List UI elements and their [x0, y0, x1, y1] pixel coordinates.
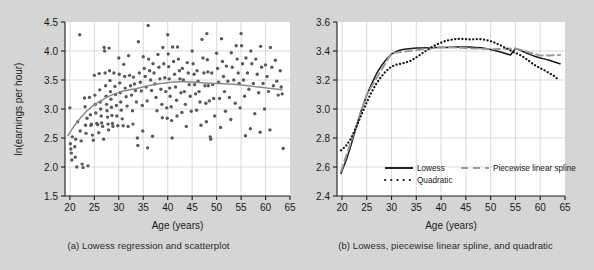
- panel-b: 202530354045505560652.42.62.83.03.23.43.…: [297, 0, 594, 270]
- y-tick-label: 1.5: [44, 191, 58, 202]
- x-tick-label: 45: [187, 202, 199, 213]
- x-tick-label: 40: [436, 202, 448, 213]
- panel-b-plot: 202530354045505560652.42.62.83.03.23.43.…: [297, 0, 594, 240]
- legend-label-quadratic: Quadratic: [417, 176, 453, 185]
- y-tick-label: 2.5: [44, 133, 58, 144]
- y-tick-label: 3.4: [316, 46, 330, 57]
- figure-container: 202530354045505560651.52.02.53.03.54.04.…: [0, 0, 594, 270]
- y-tick-label: 4.0: [44, 46, 58, 57]
- x-tick-label: 50: [211, 202, 223, 213]
- y-tick-label: 3.6: [316, 17, 330, 28]
- panel-b-caption: (b) Lowess, piecewise linear spline, and…: [297, 240, 594, 251]
- y-tick-label: 3.2: [316, 75, 330, 86]
- x-tick-label: 65: [284, 202, 296, 213]
- y-tick-label: 3.0: [44, 104, 58, 115]
- y-tick-label: 4.5: [44, 17, 58, 28]
- x-tick-label: 30: [113, 202, 125, 213]
- x-tick-label: 35: [411, 202, 423, 213]
- x-tick-label: 35: [138, 202, 150, 213]
- legend-label-piecewise-linear-spline: Piecewise linear spline: [493, 164, 576, 173]
- x-tick-label: 60: [535, 202, 547, 213]
- panel-a-caption: (a) Lowess regression and scatterplot: [0, 240, 297, 251]
- y-tick-label: 3.0: [316, 104, 330, 115]
- x-tick-label: 50: [485, 202, 497, 213]
- x-tick-label: 65: [559, 202, 571, 213]
- x-tick-label: 30: [386, 202, 398, 213]
- x-tick-label: 45: [460, 202, 472, 213]
- y-axis-title: ln(earnings per hour): [13, 63, 24, 156]
- x-tick-label: 20: [336, 202, 348, 213]
- y-tick-label: 2.0: [44, 162, 58, 173]
- y-tick-label: 3.5: [44, 75, 58, 86]
- x-axis-title: Age (years): [152, 220, 204, 231]
- x-tick-label: 60: [260, 202, 272, 213]
- y-tick-label: 2.6: [316, 162, 330, 173]
- panel-a-plot: 202530354045505560651.52.02.53.03.54.04.…: [0, 0, 297, 240]
- x-tick-label: 25: [89, 202, 101, 213]
- legend-label-lowess: Lowess: [417, 164, 445, 173]
- x-tick-label: 55: [236, 202, 248, 213]
- y-tick-label: 2.4: [316, 191, 330, 202]
- x-tick-label: 20: [64, 202, 76, 213]
- x-axis-title: Age (years): [425, 220, 477, 231]
- x-tick-label: 25: [361, 202, 373, 213]
- x-tick-label: 40: [162, 202, 174, 213]
- panel-a: 202530354045505560651.52.02.53.03.54.04.…: [0, 0, 297, 270]
- x-tick-label: 55: [510, 202, 522, 213]
- y-tick-label: 2.8: [316, 133, 330, 144]
